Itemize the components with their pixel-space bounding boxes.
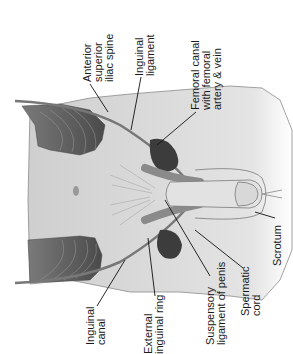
navel bbox=[73, 186, 79, 196]
label-spermatic-cord: Spermatic cord bbox=[240, 266, 262, 316]
label-scrotum: Scrotum bbox=[272, 225, 283, 266]
label-inguinal-canal: Inguinal canal bbox=[85, 306, 107, 345]
label-femoral-canal: Femoral canal with femoral artery & vein bbox=[190, 40, 223, 110]
glans bbox=[235, 182, 258, 206]
label-external-inguinal-ring: External inguinal ring bbox=[143, 295, 165, 354]
label-suspensory-ligament: Suspensory ligament of penis bbox=[205, 262, 227, 345]
label-inguinal-ligament: Inguinal ligament bbox=[134, 34, 156, 76]
anatomy-diagram: Anterior superior iliac spine Inguinal l… bbox=[0, 0, 293, 354]
lower-muscle bbox=[28, 236, 102, 282]
label-anterior-superior-iliac-spine: Anterior superior iliac spine bbox=[82, 34, 115, 82]
